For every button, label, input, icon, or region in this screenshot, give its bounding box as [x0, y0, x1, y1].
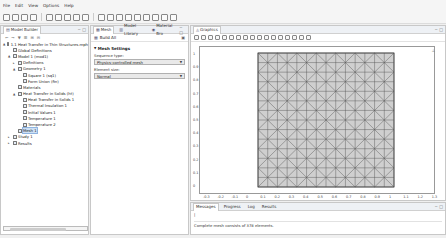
model-builder-header: ▤ Model Builder − □: [1, 26, 88, 34]
zoom-extents-icon[interactable]: [215, 35, 220, 40]
forward-icon[interactable]: →: [11, 35, 14, 40]
window-controls[interactable]: − □: [78, 27, 86, 32]
mesh-settings-toggle[interactable]: ▼ Mesh Settings: [94, 45, 185, 51]
save-icon[interactable]: [21, 14, 28, 21]
print-icon[interactable]: [299, 35, 304, 40]
tree-item-label: Geometry 1: [23, 66, 46, 71]
axis-icon[interactable]: [285, 35, 290, 40]
y-tick-label: 0.8: [193, 78, 198, 82]
build-all-button[interactable]: Build All: [100, 35, 116, 40]
paste-icon[interactable]: [73, 14, 80, 21]
menu-view[interactable]: View: [28, 3, 38, 8]
mesh-icon: ▦: [96, 26, 100, 34]
pan-icon[interactable]: [222, 35, 227, 40]
element-size-select[interactable]: Normal ▼: [94, 73, 185, 79]
parameters-icon[interactable]: [98, 14, 105, 21]
open-icon[interactable]: [12, 14, 19, 21]
grid-icon[interactable]: [278, 35, 283, 40]
build-all-icon[interactable]: ▦: [94, 35, 98, 40]
y-tick-label: 0.5: [193, 118, 198, 122]
desktop-icon[interactable]: [170, 14, 177, 21]
tab-graphics[interactable]: ◬ Graphics: [193, 26, 221, 34]
scrollbar-thumb[interactable]: [10, 228, 66, 231]
scene-light-icon[interactable]: [257, 35, 262, 40]
model-icon: [13, 54, 17, 58]
collapse-icon[interactable]: ⊟: [37, 35, 40, 40]
clear-select-icon[interactable]: [250, 35, 255, 40]
element-size-label: Element size:: [94, 67, 185, 72]
x-tick-label: 1.1: [403, 195, 408, 199]
tab-material-browser[interactable]: ◉ Material Bro: [150, 26, 177, 34]
expand-toggle-icon[interactable]: ▸: [13, 61, 16, 65]
expand-toggle-icon[interactable]: ▸: [8, 141, 11, 145]
back-icon[interactable]: ←: [5, 35, 8, 40]
tab-log[interactable]: Log: [246, 203, 257, 211]
x-tick-label: 1: [389, 195, 391, 199]
mesh-icon[interactable]: [134, 14, 141, 21]
menu-options[interactable]: Options: [43, 3, 59, 8]
tree-item-label: Results: [18, 141, 32, 146]
undo-icon[interactable]: [46, 14, 53, 21]
expand-toggle-icon[interactable]: ▲: [13, 92, 16, 96]
export-icon[interactable]: [292, 35, 297, 40]
save-as-icon[interactable]: [30, 14, 37, 21]
tree-item[interactable]: ▸Results: [3, 140, 88, 146]
windows-icon[interactable]: [161, 14, 168, 21]
menu-file[interactable]: File: [3, 3, 10, 8]
expand-icon[interactable]: ⊞: [30, 35, 33, 40]
redo-icon[interactable]: [55, 14, 62, 21]
expand-toggle-icon[interactable]: ▲: [3, 42, 5, 46]
messages-tabs: Messages Progress Log Results − □: [191, 203, 445, 211]
y-tick-label: 1: [193, 52, 195, 56]
window-controls[interactable]: − □: [435, 27, 443, 32]
physics-icon[interactable]: [125, 14, 132, 21]
menu-help[interactable]: Help: [64, 3, 74, 8]
sequence-type-select[interactable]: Physics-controlled mesh ▼: [94, 59, 185, 65]
model-builder-panel: ▤ Model Builder − □ ← → ▼ ☰ ⊞ ⊟ ▲1.1 Hea…: [0, 25, 89, 235]
materials-icon[interactable]: [116, 14, 123, 21]
horizontal-scrollbar[interactable]: [3, 226, 88, 231]
help-icon[interactable]: ▣: [181, 35, 185, 40]
zoom-in-icon[interactable]: [201, 35, 206, 40]
x-tick-label: 0.1: [260, 195, 265, 199]
menu-edit[interactable]: Edit: [15, 3, 23, 8]
select-box-icon[interactable]: [243, 35, 248, 40]
tab-results[interactable]: Results: [260, 203, 278, 211]
tab-progress[interactable]: Progress: [222, 203, 243, 211]
tree-item-label: Mesh 1: [23, 128, 37, 133]
sort-icon[interactable]: ☰: [24, 35, 28, 40]
tab-model-builder[interactable]: ▤ Model Builder: [3, 26, 41, 34]
tree-icon: ▤: [6, 26, 10, 34]
tab-messages[interactable]: Messages: [193, 203, 219, 211]
window-controls[interactable]: − □: [179, 25, 186, 35]
geometry-icon[interactable]: [107, 14, 114, 21]
study-icon[interactable]: [143, 14, 150, 21]
wireframe-icon[interactable]: [271, 35, 276, 40]
expand-toggle-icon[interactable]: ▸: [8, 135, 11, 139]
transparency-icon[interactable]: [264, 35, 269, 40]
results-icon[interactable]: [152, 14, 159, 21]
tab-model-library[interactable]: ▥ Model Library: [117, 26, 146, 34]
zoom-box-icon[interactable]: [194, 35, 199, 40]
window-controls[interactable]: − □: [435, 204, 443, 209]
screenshot-icon[interactable]: [306, 35, 311, 40]
tree-item-label: Heat Transfer in Solids 1: [28, 97, 74, 102]
expand-toggle-icon[interactable]: ▲: [8, 54, 11, 58]
zoom-out-icon[interactable]: [208, 35, 213, 40]
y-tick-label: 0.7: [193, 92, 198, 96]
y-tick-label: 0.2: [193, 158, 198, 162]
tab-mesh[interactable]: ▦ Mesh: [93, 26, 114, 34]
new-icon[interactable]: [3, 14, 10, 21]
filter-icon[interactable]: ▼: [18, 35, 21, 40]
chevron-down-icon: ▼: [180, 60, 182, 64]
tree-item[interactable]: ▲1.1 Heat Transfer in Thin Structures.mp…: [3, 41, 88, 47]
expand-toggle-icon[interactable]: ▲: [13, 67, 16, 71]
rotate-icon[interactable]: [229, 35, 234, 40]
delete-icon[interactable]: [82, 14, 89, 21]
globe-icon: [13, 48, 17, 52]
graphics-canvas[interactable]: [199, 46, 435, 194]
y-tick-label: 0: [193, 184, 195, 188]
select-icon[interactable]: [236, 35, 241, 40]
copy-icon[interactable]: [64, 14, 71, 21]
messages-panel: Messages Progress Log Results − □ | Comp…: [190, 202, 446, 235]
